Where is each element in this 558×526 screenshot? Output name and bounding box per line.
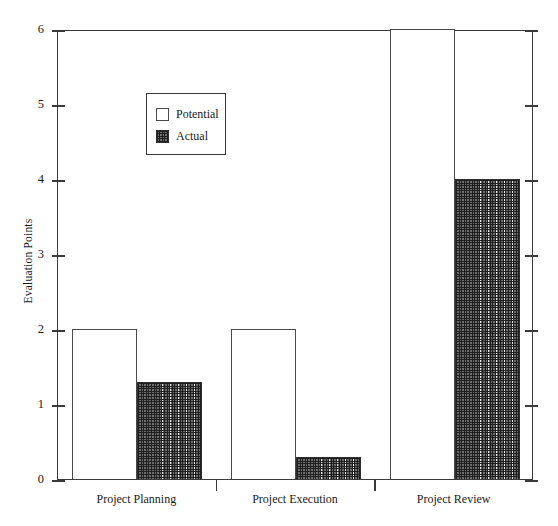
y-tick-label: 2 [24,322,44,337]
y-tick-label: 6 [24,22,44,37]
y-tick-mark-left [52,30,65,31]
bar-actual-1 [296,457,361,480]
bar-potential-2 [390,29,455,479]
legend-swatch-potential-icon [156,108,169,121]
legend: Potential Actual [146,93,226,155]
y-tick-mark-left [52,255,65,256]
y-tick-mark-right [525,30,538,31]
plot-area: 0123456 [57,30,533,480]
y-tick-mark-right [525,105,538,106]
y-tick-label: 4 [24,172,44,187]
legend-item-potential: Potential [156,103,225,125]
y-tick-mark-left [52,405,65,406]
bar-chart: Evaluation Points 0123456 Project Planni… [0,0,558,526]
y-tick-mark-right [525,180,538,181]
bar-actual-2 [455,179,520,479]
y-tick-mark-right [525,255,538,256]
category-separator [216,480,217,491]
category-label-0: Project Planning [57,492,216,507]
category-label-2: Project Review [374,492,533,507]
legend-label-potential: Potential [176,107,219,122]
y-tick-label: 5 [24,97,44,112]
y-tick-mark-left [52,330,65,331]
legend-label-actual: Actual [176,129,208,144]
y-tick-mark-right [525,330,538,331]
category-separator [374,480,375,491]
y-tick-label: 1 [24,397,44,412]
y-tick-mark-left [52,480,65,481]
category-label-1: Project Execution [216,492,375,507]
y-tick-label: 0 [24,472,44,487]
y-tick-mark-right [525,480,538,481]
y-tick-mark-left [52,105,65,106]
legend-item-actual: Actual [156,125,225,147]
bar-potential-0 [72,329,137,479]
bar-actual-0 [137,382,202,480]
y-tick-mark-right [525,405,538,406]
bar-potential-1 [231,329,296,479]
legend-swatch-actual-icon [156,130,169,143]
y-tick-label: 3 [24,247,44,262]
y-tick-mark-left [52,180,65,181]
